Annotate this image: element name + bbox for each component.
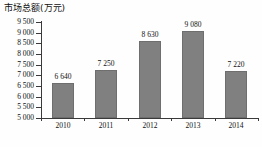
bar-value-label: 9 080 — [171, 21, 215, 29]
y-tick-label: 8 000 — [2, 50, 34, 58]
x-tick-mark — [128, 118, 129, 121]
bar-value-label: 7 220 — [214, 61, 258, 69]
y-axis-labels: 9 5009 0008 5008 0007 5007 0006 5006 000… — [0, 0, 34, 147]
x-tick-label: 2012 — [130, 121, 170, 130]
x-tick-mark — [171, 118, 172, 121]
x-tick-label: 2014 — [216, 121, 256, 130]
bar-chart: 市场总额(万元) 9 5009 0008 5008 0007 5007 0006… — [0, 0, 262, 147]
y-tick-label: 7 000 — [2, 71, 34, 79]
x-tick-label: 2011 — [86, 121, 126, 130]
x-tick-mark — [41, 118, 42, 121]
bar — [52, 83, 74, 118]
y-tick-label: 8 500 — [2, 39, 34, 47]
y-tick-label: 7 500 — [2, 61, 34, 69]
y-tick-label: 6 500 — [2, 82, 34, 90]
x-tick-label: 2013 — [173, 121, 213, 130]
y-tick-label: 6 000 — [2, 93, 34, 101]
y-tick-label: 9 500 — [2, 18, 34, 26]
bar-value-label: 7 250 — [84, 60, 128, 68]
y-tick-label: 9 000 — [2, 29, 34, 37]
bar — [95, 70, 117, 118]
x-axis-line — [41, 118, 258, 119]
x-tick-mark — [84, 118, 85, 121]
bar — [182, 31, 204, 118]
x-tick-label: 2010 — [43, 121, 83, 130]
bar-value-label: 8 630 — [128, 31, 172, 39]
y-tick-label: 5 500 — [2, 103, 34, 111]
y-tick-label: 5 000 — [2, 114, 34, 122]
x-tick-mark — [258, 118, 259, 121]
bar — [225, 71, 247, 118]
bar-value-label: 6 640 — [41, 73, 85, 81]
bar — [139, 41, 161, 118]
